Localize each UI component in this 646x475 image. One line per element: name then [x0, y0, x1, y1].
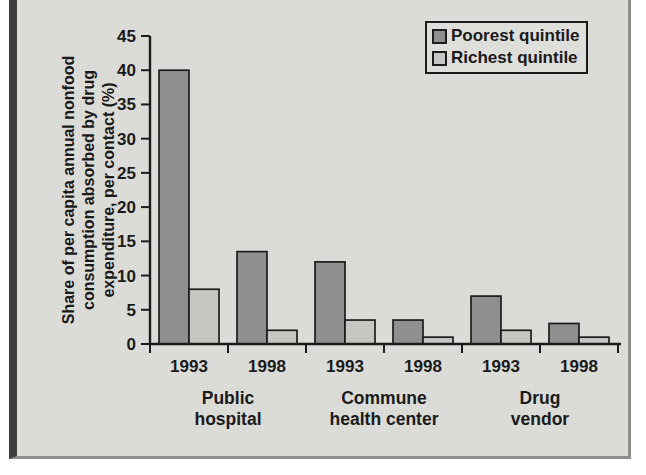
- y-tick-label: 15: [117, 232, 136, 251]
- legend: Poorest quintile Richest quintile: [425, 21, 588, 74]
- scanned-figure-page: Share of per capita annual nonfood consu…: [0, 0, 646, 475]
- group-label-line-1: Public: [202, 388, 255, 408]
- x-year-label: 1993: [482, 357, 520, 376]
- y-tick-label: 10: [117, 267, 136, 286]
- bar-richest-1993: [189, 289, 219, 344]
- group-label-line-2: vendor: [511, 409, 570, 429]
- bar-richest-1998: [267, 330, 297, 344]
- group-label-line-1: Commune: [341, 388, 427, 408]
- bar-richest-1993: [501, 330, 531, 344]
- bar-poorest-1993: [159, 70, 189, 344]
- richest-quintile-swatch-icon: [432, 51, 447, 66]
- y-tick-label: 25: [117, 164, 136, 183]
- y-tick-label: 45: [117, 27, 136, 46]
- x-year-label: 1993: [170, 357, 208, 376]
- bars-series-0: [159, 70, 579, 344]
- y-tick-label: 5: [127, 301, 136, 320]
- legend-item-richest-quintile: Richest quintile: [432, 47, 579, 69]
- legend-item-poorest-quintile: Poorest quintile: [432, 25, 579, 47]
- bar-poorest-1993: [315, 262, 345, 344]
- y-tick-label: 30: [117, 130, 136, 149]
- bar-poorest-1998: [393, 320, 423, 344]
- poorest-quintile-swatch-icon: [432, 29, 447, 44]
- legend-label-richest-quintile: Richest quintile: [451, 48, 578, 68]
- bar-poorest-1998: [549, 323, 579, 344]
- group-label-line-2: health center: [330, 409, 439, 429]
- bar-richest-1993: [345, 320, 375, 344]
- group-label-line-1: Drug: [520, 388, 561, 408]
- y-tick-label: 20: [117, 198, 136, 217]
- x-year-label: 1993: [326, 357, 364, 376]
- x-year-label: 1998: [560, 357, 598, 376]
- y-tick-label: 35: [117, 95, 136, 114]
- x-year-label: 1998: [404, 357, 442, 376]
- bar-poorest-1993: [471, 296, 501, 344]
- legend-label-poorest-quintile: Poorest quintile: [451, 26, 579, 46]
- group-label-line-2: hospital: [194, 409, 261, 429]
- chart-panel: Share of per capita annual nonfood consu…: [9, 0, 631, 459]
- bar-poorest-1998: [237, 252, 267, 344]
- y-tick-label: 0: [127, 335, 136, 354]
- y-tick-label: 40: [117, 61, 136, 80]
- x-year-label: 1998: [248, 357, 286, 376]
